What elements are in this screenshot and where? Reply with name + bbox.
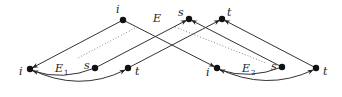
node-top_s: [186, 16, 192, 22]
dotted-line: [175, 27, 266, 63]
graph-diagram: istististEE1E2: [0, 0, 342, 97]
region-label-sub-E2: 2: [251, 69, 255, 77]
node-right_i: [214, 65, 220, 71]
dotted-line: [78, 28, 135, 58]
node-label-right_s: s: [271, 60, 277, 73]
node-label-left_i: i: [19, 65, 23, 78]
node-top_t: [219, 16, 225, 22]
node-label-top_t: t: [227, 6, 232, 19]
node-right_t: [313, 65, 319, 71]
node-right_s: [279, 64, 285, 70]
node-label-right_i: i: [206, 66, 210, 79]
node-label-right_t: t: [323, 65, 328, 78]
node-label-top_s: s: [178, 6, 184, 19]
region-label-sub-E1: 1: [64, 69, 68, 77]
node-label-left_s: s: [84, 59, 90, 72]
node-left_i: [27, 66, 33, 72]
region-label-E: E: [152, 12, 161, 25]
node-top_i: [120, 17, 126, 23]
edge-right_i-to-right_t: [217, 68, 313, 81]
node-label-left_t: t: [135, 65, 140, 78]
edge-left_i-to-left_t: [30, 69, 125, 81]
node-left_t: [125, 65, 131, 71]
node-label-top_i: i: [116, 3, 120, 16]
node-left_s: [92, 65, 98, 71]
edge-top_i-to-right_i: [123, 20, 214, 67]
region-label-E2: E: [241, 62, 250, 75]
region-label-E1: E: [54, 62, 63, 75]
